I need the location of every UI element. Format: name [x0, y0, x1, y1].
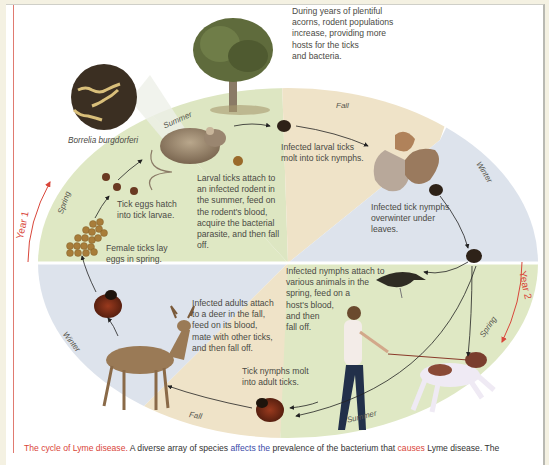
adult-tick-icon: [256, 398, 284, 422]
season-label-y1-fall: Fall: [336, 101, 349, 110]
step-eggs-label: Female ticks lay eggs in spring.: [106, 243, 168, 265]
step-nymph-molt-label: Tick nymphs molt into adult ticks.: [242, 366, 309, 388]
caption-link[interactable]: affects the: [231, 443, 271, 453]
acorn-note: During years of plentiful acorns, rodent…: [292, 6, 393, 62]
step-adult-attach-label: Infected adults attach to a deer in the …: [192, 298, 274, 354]
step-nymph-attach-label: Infected nymphs attach to various animal…: [286, 266, 384, 333]
nymph-tick-icon: [466, 249, 482, 263]
step-larval-molt-label: Infected larval ticks molt into tick nym…: [281, 142, 364, 164]
step-overwinter-label: Infected tick nymphs overwinter under le…: [371, 202, 449, 236]
larval-tick-icon: [277, 120, 291, 132]
step-larval-attach-label: Larval ticks attach to an infected roden…: [197, 173, 279, 251]
caption-title: The cycle of Lyme disease.: [24, 443, 128, 453]
figure-caption: The cycle of Lyme disease. A diverse arr…: [24, 443, 499, 453]
bacterium-label: Borrelia burgdorferi: [68, 136, 138, 145]
caption-highlight: causes: [398, 443, 425, 453]
step-hatch-label: Tick eggs hatch into tick larvae.: [117, 199, 177, 221]
